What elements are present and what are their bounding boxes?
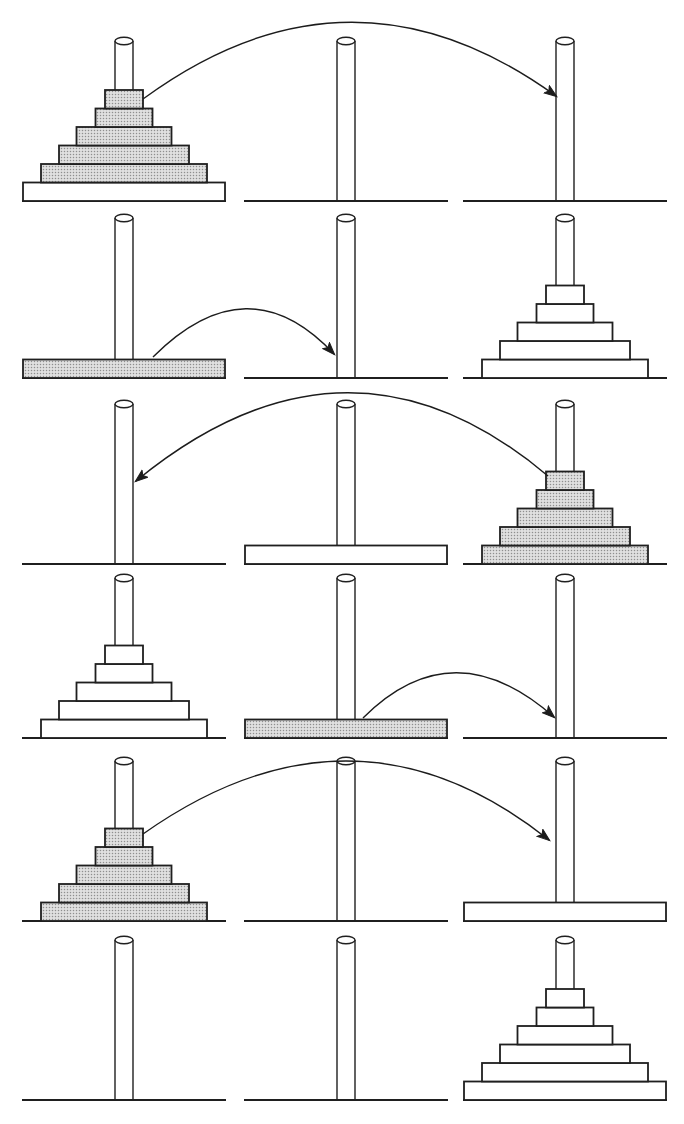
disk-size-2-plain bbox=[537, 1008, 594, 1027]
step-4-peg-middle bbox=[244, 574, 448, 738]
peg-top-cap bbox=[556, 37, 574, 45]
step-1-peg-middle bbox=[244, 37, 448, 201]
peg-top-cap bbox=[337, 936, 355, 944]
disk-size-6-shaded bbox=[23, 360, 225, 379]
disk-size-4-plain bbox=[59, 701, 189, 720]
disk-size-3-shaded bbox=[77, 866, 172, 885]
disk-size-6-shaded bbox=[245, 720, 447, 739]
peg-top-cap bbox=[115, 574, 133, 582]
peg-top-cap bbox=[115, 936, 133, 944]
disk-size-4-shaded bbox=[59, 146, 189, 165]
scanned-page bbox=[0, 0, 684, 1124]
disk-size-1-shaded bbox=[105, 829, 143, 848]
hanoi-step-3 bbox=[22, 393, 667, 564]
disk-size-1-plain bbox=[546, 989, 584, 1008]
disk-size-5-plain bbox=[482, 1063, 648, 1082]
disk-size-6-plain bbox=[464, 903, 666, 922]
disk-size-4-shaded bbox=[500, 527, 630, 546]
peg-top-cap bbox=[337, 400, 355, 408]
hanoi-step-1 bbox=[22, 22, 667, 201]
step-3-peg-middle bbox=[244, 400, 448, 564]
disk-size-2-shaded bbox=[96, 847, 153, 866]
disk-size-3-plain bbox=[518, 323, 613, 342]
step-3-peg-right bbox=[463, 400, 667, 564]
hanoi-diagram-svg bbox=[0, 0, 684, 1124]
disk-size-6-plain bbox=[23, 183, 225, 202]
step-6-peg-right bbox=[463, 936, 667, 1100]
disk-size-5-shaded bbox=[41, 164, 207, 183]
disk-size-5-shaded bbox=[482, 546, 648, 565]
step-1-peg-left bbox=[22, 37, 226, 201]
disk-size-4-plain bbox=[500, 1045, 630, 1064]
disk-size-2-shaded bbox=[96, 109, 153, 128]
peg-top-cap bbox=[115, 757, 133, 765]
step-1-peg-right bbox=[463, 37, 667, 201]
peg-top-cap bbox=[115, 37, 133, 45]
disk-size-2-shaded bbox=[537, 490, 594, 509]
step-2-peg-right bbox=[463, 214, 667, 378]
step-2-peg-left bbox=[22, 214, 226, 378]
disk-size-1-shaded bbox=[546, 472, 584, 491]
disk-size-5-plain bbox=[41, 720, 207, 739]
step-6-peg-middle bbox=[244, 936, 448, 1100]
disk-size-3-plain bbox=[77, 683, 172, 702]
step-4-peg-right bbox=[463, 574, 667, 738]
hanoi-step-2 bbox=[22, 214, 667, 378]
step-2-peg-middle bbox=[244, 214, 448, 378]
disk-size-1-plain bbox=[105, 646, 143, 665]
step-5-peg-right bbox=[463, 757, 667, 921]
peg-top-cap bbox=[115, 400, 133, 408]
peg-top-cap bbox=[337, 214, 355, 222]
hanoi-step-5 bbox=[22, 757, 667, 921]
move-arrow-middle-to-right bbox=[363, 673, 554, 718]
disk-size-6-plain bbox=[245, 546, 447, 565]
peg-top-cap bbox=[556, 400, 574, 408]
peg-top-cap bbox=[556, 214, 574, 222]
disk-size-3-plain bbox=[518, 1026, 613, 1045]
move-arrow-left-to-middle bbox=[153, 309, 334, 357]
peg-top-cap bbox=[115, 214, 133, 222]
move-arrow-left-to-right bbox=[143, 761, 549, 840]
disk-size-5-shaded bbox=[41, 903, 207, 922]
disk-size-1-plain bbox=[546, 286, 584, 305]
disk-size-3-shaded bbox=[518, 509, 613, 528]
step-6-peg-left bbox=[22, 936, 226, 1100]
disk-size-3-shaded bbox=[77, 127, 172, 146]
disk-size-2-plain bbox=[537, 304, 594, 323]
disk-size-2-plain bbox=[96, 664, 153, 683]
disk-size-5-plain bbox=[482, 360, 648, 379]
step-3-peg-left bbox=[22, 400, 226, 564]
disk-size-1-shaded bbox=[105, 90, 143, 109]
peg-top-cap bbox=[556, 574, 574, 582]
disk-size-4-plain bbox=[500, 341, 630, 360]
step-5-peg-left bbox=[22, 757, 226, 921]
hanoi-step-6 bbox=[22, 936, 667, 1100]
hanoi-figure bbox=[0, 0, 684, 1124]
step-5-peg-middle bbox=[244, 757, 448, 921]
disk-size-6-plain bbox=[464, 1082, 666, 1101]
peg-top-cap bbox=[337, 37, 355, 45]
hanoi-step-4 bbox=[22, 574, 667, 738]
move-arrow-left-to-right bbox=[143, 22, 556, 99]
peg-top-cap bbox=[337, 574, 355, 582]
peg-top-cap bbox=[556, 936, 574, 944]
step-4-peg-left bbox=[22, 574, 226, 738]
peg-top-cap bbox=[556, 757, 574, 765]
disk-size-4-shaded bbox=[59, 884, 189, 903]
